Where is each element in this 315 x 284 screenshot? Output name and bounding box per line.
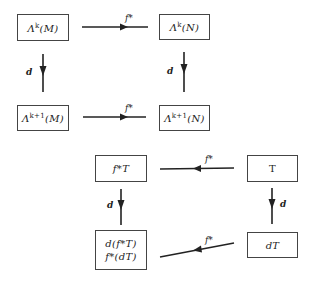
arrowhead-icon	[40, 66, 47, 76]
node-base: Λ	[22, 114, 30, 125]
node-label: dT	[266, 239, 280, 252]
node-sup: k+1	[30, 112, 45, 120]
label-right-d-2: d	[280, 199, 286, 209]
arrowhead-icon	[193, 165, 201, 172]
node-label-line1: d(f*T)	[105, 237, 136, 250]
label-left-d: d	[26, 67, 32, 77]
node-lambda-k-m: Λk(M)	[17, 14, 69, 41]
node-lambda-k-n: Λk(N)	[159, 14, 210, 40]
node-f-star-t: f*T	[95, 155, 147, 182]
node-lambda-k1-m: Λk+1(M)	[17, 105, 69, 131]
label-top-f-star-2: f*	[205, 154, 213, 164]
arrowhead-icon	[181, 64, 188, 74]
node-arg: (N)	[182, 23, 199, 34]
node-d-t: dT	[247, 232, 298, 258]
node-label-line2: f*(dT)	[105, 250, 136, 263]
node-sup: k+1	[172, 112, 187, 120]
node-lambda-k1-n: Λk+1(N)	[159, 105, 210, 131]
arrowhead-icon	[120, 24, 128, 31]
node-label: f*T	[113, 162, 129, 175]
node-base: Λ	[164, 114, 172, 125]
label-left-d-2: d	[107, 200, 113, 210]
arrowhead-icon	[269, 199, 276, 209]
node-label: T	[269, 162, 276, 175]
node-t: T	[247, 155, 298, 182]
label-bottom-f-star: f*	[125, 103, 133, 113]
label-top-f-star: f*	[125, 13, 133, 23]
arrowhead-icon	[120, 114, 128, 121]
node-arg: (M)	[45, 114, 64, 125]
arrowhead-icon	[118, 200, 125, 210]
node-d-f-star-t: d(f*T) f*(dT)	[95, 230, 147, 270]
label-bottom-f-star-2: f*	[205, 235, 213, 245]
node-arg: (M)	[40, 23, 59, 34]
label-right-d: d	[167, 66, 173, 76]
node-arg: (N)	[187, 114, 204, 125]
node-base: Λ	[27, 23, 35, 34]
arrowhead-icon	[193, 246, 202, 253]
